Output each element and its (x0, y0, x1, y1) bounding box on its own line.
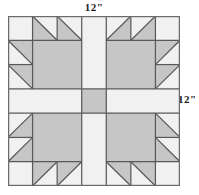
center-square (82, 89, 107, 113)
paw-top-left-big-square (33, 40, 82, 89)
dimension-label-top: 12" (0, 1, 188, 13)
quilt-block-figure: 12" 12" (0, 0, 199, 195)
bears-paw-block (8, 16, 180, 186)
paw-bottom-right-big-square (106, 113, 155, 162)
paw-top-right-big-square (106, 40, 155, 89)
dimension-label-right: 12" (178, 93, 197, 105)
paw-bottom-left-big-square (33, 113, 82, 162)
